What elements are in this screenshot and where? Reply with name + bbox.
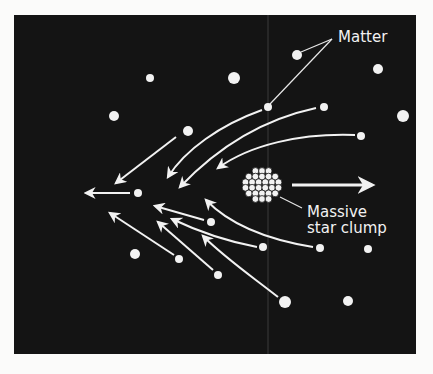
clump-pointer-line	[280, 197, 302, 208]
arrow-6	[110, 213, 174, 255]
matter-dot	[134, 189, 142, 197]
clump-label-line1: Massive	[307, 204, 387, 220]
matter-dot	[279, 296, 291, 308]
matter-dot	[228, 72, 240, 84]
clump-star	[259, 196, 266, 203]
massive-star-clump	[242, 168, 282, 203]
clump-label-line2: star clump	[307, 220, 387, 236]
matter-pointer-lines	[270, 39, 332, 104]
arrow-2	[168, 110, 262, 177]
arrow-1	[116, 137, 176, 183]
matter-dot	[292, 50, 302, 60]
matter-dot	[357, 132, 365, 140]
matter-dot	[175, 255, 183, 263]
arrow-7	[158, 222, 213, 270]
matter-dot	[146, 74, 154, 82]
matter-dot	[373, 64, 383, 74]
matter-dot	[364, 245, 372, 253]
matter-dot	[109, 111, 119, 121]
clump-label: Massive star clump	[307, 204, 387, 236]
matter-dot	[316, 244, 324, 252]
matter-dot	[259, 243, 267, 251]
arrow-8	[155, 206, 204, 220]
clump-star	[245, 190, 252, 197]
clump-star	[252, 196, 259, 203]
matter-dot	[320, 103, 328, 111]
matter-dot	[130, 249, 140, 259]
clump-star	[272, 190, 279, 197]
matter-dot	[264, 103, 272, 111]
matter-dot	[207, 218, 215, 226]
matter-dot	[183, 126, 193, 136]
matter-dot	[214, 271, 222, 279]
matter-label: Matter	[338, 29, 387, 45]
arrow-10	[206, 200, 313, 247]
gravity-diagram	[0, 0, 433, 374]
matter-dot	[397, 110, 409, 122]
matter-dot	[343, 296, 353, 306]
clump-star	[265, 196, 272, 203]
arrow-11	[203, 236, 278, 297]
